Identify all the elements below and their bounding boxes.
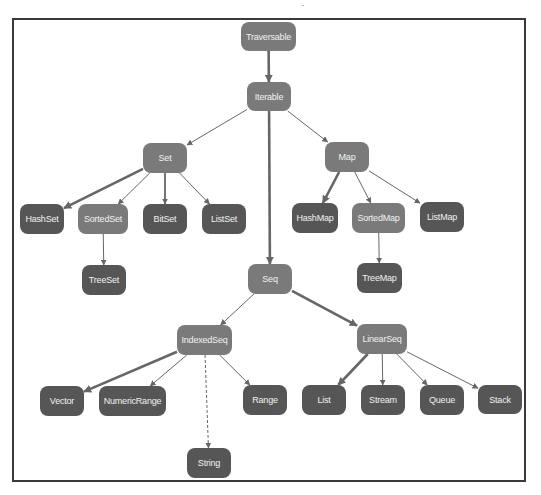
node-traversable[interactable]: Traversable — [241, 22, 296, 51]
edge-indexedseq-to-string — [205, 355, 208, 448]
node-hashset[interactable]: HashSet — [20, 204, 64, 234]
node-list[interactable]: List — [302, 385, 346, 415]
node-range[interactable]: Range — [243, 385, 287, 415]
edge-map-to-hashmap — [323, 172, 339, 203]
node-label: Iterable — [255, 92, 283, 102]
node-label: Map — [339, 152, 356, 162]
node-label: List — [317, 395, 330, 405]
node-label: BitSet — [154, 214, 177, 224]
node-label: ListMap — [427, 212, 457, 222]
node-label: Range — [252, 395, 278, 405]
edge-iterable-to-map — [288, 111, 328, 142]
node-string[interactable]: String — [187, 448, 231, 478]
node-label: SortedSet — [84, 214, 122, 224]
node-label: IndexedSeq — [181, 335, 227, 345]
node-label: Set — [159, 153, 172, 163]
node-listset[interactable]: ListSet — [202, 204, 246, 234]
edge-map-to-sortedmap — [355, 172, 371, 203]
edge-layer — [0, 0, 541, 495]
node-treemap[interactable]: TreeMap — [357, 263, 402, 293]
node-linearseq[interactable]: LinearSeq — [357, 324, 407, 354]
node-label: SortedMap — [357, 213, 399, 223]
node-stream[interactable]: Stream — [361, 385, 405, 415]
edge-linearseq-to-list — [338, 354, 367, 385]
edge-linearseq-to-queue — [397, 354, 427, 385]
node-queue[interactable]: Queue — [420, 385, 464, 415]
node-label: String — [198, 458, 220, 468]
node-label: Vector — [50, 396, 74, 406]
node-label: NumericRange — [104, 396, 162, 406]
node-treeset[interactable]: TreeSet — [82, 265, 126, 295]
node-label: ListSet — [211, 214, 237, 224]
node-sortedmap[interactable]: SortedMap — [352, 203, 405, 233]
node-label: HashSet — [25, 214, 58, 224]
node-iterable[interactable]: Iterable — [247, 82, 291, 111]
edge-seq-to-linearseq — [292, 291, 357, 326]
edge-iterable-to-seq — [269, 111, 270, 264]
node-sortedset[interactable]: SortedSet — [78, 204, 128, 234]
edge-seq-to-indexedseq — [221, 294, 254, 325]
edge-sortedset-to-treeset — [103, 234, 104, 265]
edge-set-to-hashset — [64, 169, 143, 208]
edge-map-to-listmap — [369, 171, 420, 203]
node-label: Seq — [262, 274, 277, 284]
edge-sortedmap-to-treemap — [379, 233, 380, 263]
node-hashmap[interactable]: HashMap — [292, 203, 338, 233]
node-label: HashMap — [296, 213, 333, 223]
node-label: Stack — [489, 395, 511, 405]
node-vector[interactable]: Vector — [40, 386, 84, 416]
node-stack[interactable]: Stack — [478, 385, 522, 414]
edge-indexedseq-to-range — [220, 355, 250, 385]
node-label: TreeMap — [362, 273, 396, 283]
edge-set-to-listset — [180, 173, 210, 204]
node-label: LinearSeq — [362, 334, 401, 344]
node-map[interactable]: Map — [325, 142, 369, 172]
node-label: Stream — [369, 395, 397, 405]
edge-linearseq-to-stream — [382, 354, 383, 385]
node-bitset[interactable]: BitSet — [143, 204, 187, 234]
node-listmap[interactable]: ListMap — [420, 202, 464, 232]
edge-iterable-to-set — [187, 110, 247, 145]
edge-linearseq-to-stack — [407, 352, 478, 388]
node-label: TreeSet — [89, 275, 119, 285]
node-label: Traversable — [246, 32, 291, 42]
node-set[interactable]: Set — [143, 143, 187, 173]
node-indexedseq[interactable]: IndexedSeq — [177, 325, 232, 355]
node-numericrange[interactable]: NumericRange — [99, 386, 166, 416]
node-label: Queue — [429, 395, 455, 405]
node-seq[interactable]: Seq — [248, 264, 292, 294]
